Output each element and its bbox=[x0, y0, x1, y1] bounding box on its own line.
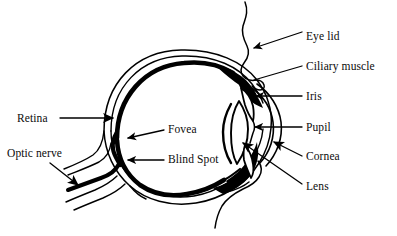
label-retina: Retina bbox=[17, 113, 48, 125]
label-optic-nerve: Optic nerve bbox=[7, 148, 62, 160]
pupil bbox=[250, 121, 255, 143]
leader-cornea bbox=[274, 142, 302, 156]
label-iris: Iris bbox=[306, 91, 322, 103]
label-fovea: Fovea bbox=[168, 124, 197, 136]
label-pupil: Pupil bbox=[306, 122, 331, 134]
label-ciliary-muscle: Ciliary muscle bbox=[306, 61, 375, 73]
leader-eye-lid bbox=[254, 32, 302, 48]
eye-diagram-canvas: Eye lid Ciliary muscle Iris Pupil Cornea… bbox=[0, 0, 397, 236]
label-blind-spot: Blind Spot bbox=[168, 154, 219, 166]
leader-ciliary-muscle bbox=[254, 66, 302, 80]
label-eye-lid: Eye lid bbox=[306, 31, 340, 43]
leader-fovea bbox=[128, 130, 164, 138]
label-cornea: Cornea bbox=[306, 151, 340, 163]
label-lens: Lens bbox=[306, 181, 329, 193]
leader-optic-nerve bbox=[50, 163, 78, 185]
